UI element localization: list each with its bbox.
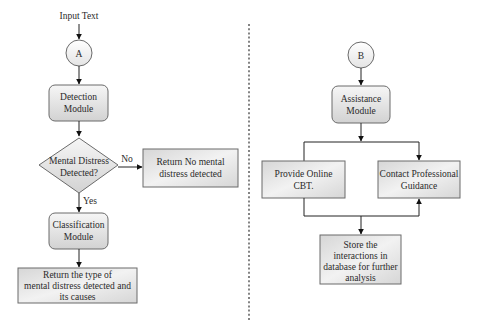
store-line-3: database for further <box>323 262 398 272</box>
assistance-module-box: Assistance Module <box>332 86 390 123</box>
merge-connector <box>304 198 419 216</box>
store-line-2: interactions in <box>333 251 387 261</box>
store-line-1: Store the <box>343 240 377 250</box>
contact-professional-box: Contact Professional Guidance <box>378 161 460 198</box>
classification-module-box: Classification Module <box>49 213 108 249</box>
assistance-line-2: Module <box>346 106 376 116</box>
classification-line-2: Module <box>64 232 94 242</box>
no-result-line-2: distress detected <box>159 169 222 179</box>
connector-a-label: A <box>76 49 83 59</box>
professional-line-2: Guidance <box>401 181 437 191</box>
decision-line-2: Detected? <box>60 168 98 178</box>
final-result-line-3: its causes <box>59 292 95 302</box>
final-result-line-1: Return the type of <box>43 270 113 280</box>
store-interactions-box: Store the interactions in database for f… <box>320 235 401 284</box>
right-flow: B Assistance Module Provide Online CBT. … <box>262 42 460 284</box>
flowchart-canvas: Input Text A Detection Module Mental Dis… <box>0 0 479 330</box>
cbt-line-2: CBT. <box>293 181 313 191</box>
input-text-label: Input Text <box>59 11 98 21</box>
store-line-4: analysis <box>345 273 376 283</box>
connector-a: A <box>66 40 92 66</box>
cbt-line-1: Provide Online <box>275 169 333 179</box>
distress-type-result-box: Return the type of mental distress detec… <box>18 268 137 303</box>
detection-line-1: Detection <box>60 92 97 102</box>
split-connector <box>304 142 419 161</box>
provide-cbt-box: Provide Online CBT. <box>262 161 345 198</box>
decision-diamond: Mental Distress Detected? <box>39 138 118 193</box>
no-result-line-1: Return No mental <box>156 157 224 167</box>
detection-line-2: Module <box>64 104 94 114</box>
classification-line-1: Classification <box>52 220 104 230</box>
detection-module-box: Detection Module <box>49 85 108 121</box>
decision-line-1: Mental Distress <box>49 156 109 166</box>
connector-b: B <box>348 42 374 68</box>
final-result-line-2: mental distress detected and <box>24 281 131 291</box>
yes-label: Yes <box>83 196 97 206</box>
professional-line-1: Contact Professional <box>380 169 459 179</box>
no-distress-result-box: Return No mental distress detected <box>143 149 238 187</box>
assistance-line-1: Assistance <box>341 94 382 104</box>
no-label: No <box>121 154 133 164</box>
left-flow: Input Text A Detection Module Mental Dis… <box>18 11 238 303</box>
connector-b-label: B <box>358 51 364 61</box>
